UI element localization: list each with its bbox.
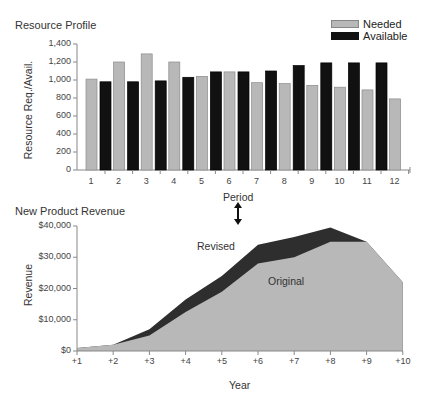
annotation-original: Original <box>268 275 304 287</box>
revenue-x-axis-title: Year <box>229 379 250 391</box>
area-original <box>77 242 403 351</box>
revenue-area-chart <box>0 0 425 398</box>
annotation-revised: Revised <box>197 240 235 252</box>
